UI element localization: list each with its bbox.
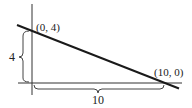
- point-label-x-intercept: (10, 0): [154, 66, 184, 79]
- height-brace: [19, 31, 29, 82]
- diagram-canvas: (0, 4) (10, 0) 4 10: [0, 0, 192, 108]
- sloped-line: [17, 25, 179, 89]
- height-label: 4: [9, 50, 15, 64]
- width-label: 10: [92, 93, 104, 107]
- point-label-y-intercept: (0, 4): [36, 21, 60, 34]
- width-brace: [34, 85, 164, 93]
